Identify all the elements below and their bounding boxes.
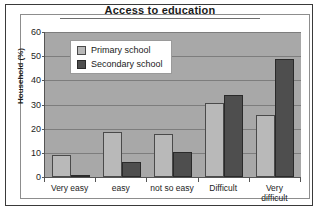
- y-axis-tick: 0: [36, 172, 41, 182]
- x-axis-tickmark: [198, 178, 199, 182]
- bar: [275, 59, 294, 177]
- x-axis-tickmark: [44, 178, 45, 182]
- x-axis-tick: not so easy: [146, 178, 197, 203]
- bar: [173, 152, 192, 177]
- bar-group: [250, 32, 301, 177]
- x-axis-tick-labels: Very easyeasynot so easyDifficultVerydif…: [44, 178, 300, 203]
- y-axis-tick: 40: [31, 75, 41, 85]
- x-axis-tick: Verydifficult: [249, 178, 300, 203]
- legend-label-secondary: Secondary school: [91, 59, 163, 69]
- legend-swatch-secondary-icon: [77, 60, 86, 69]
- x-axis-tickmark: [249, 178, 250, 182]
- y-axis-tick: 60: [31, 27, 41, 37]
- x-axis-tickmark: [146, 178, 147, 182]
- y-axis-label: Household (%): [16, 48, 25, 104]
- legend: Primary school Secondary school: [70, 40, 172, 74]
- x-axis-tickmark: [300, 178, 301, 182]
- bar: [103, 132, 122, 177]
- bar: [205, 103, 224, 177]
- bar: [154, 134, 173, 178]
- x-axis-tick: easy: [95, 178, 146, 203]
- legend-item-primary: Primary school: [77, 45, 163, 55]
- legend-swatch-primary-icon: [77, 46, 86, 55]
- bar: [122, 162, 141, 177]
- chart-title: Access to education: [60, 4, 260, 19]
- bar: [71, 175, 90, 177]
- bar-group: [199, 32, 250, 177]
- bar: [224, 95, 243, 177]
- y-axis-tick: 20: [31, 124, 41, 134]
- y-axis-tick: 50: [31, 51, 41, 61]
- legend-item-secondary: Secondary school: [77, 59, 163, 69]
- y-axis-tick: 30: [31, 100, 41, 110]
- legend-label-primary: Primary school: [91, 45, 151, 55]
- y-axis-tick: 10: [31, 148, 41, 158]
- x-axis-tick: Difficult: [198, 178, 249, 203]
- x-axis-tickmark: [95, 178, 96, 182]
- bar: [256, 115, 275, 177]
- bar: [52, 155, 71, 177]
- x-axis-tick: Very easy: [44, 178, 95, 203]
